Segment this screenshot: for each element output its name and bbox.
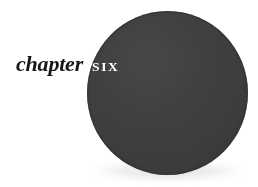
chapter-number-word: six <box>92 60 119 74</box>
circle-edge-softening <box>87 11 248 175</box>
circle-ornament-icon <box>87 11 248 175</box>
chapter-heading: chapter six <box>16 53 119 77</box>
chapter-label: chapter <box>16 53 83 75</box>
chapter-opening-page: chapter six <box>0 0 258 187</box>
